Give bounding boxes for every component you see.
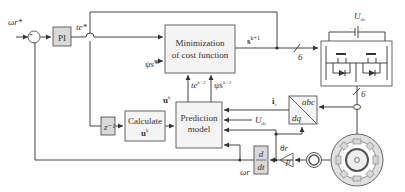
svg-text:+: + [29, 31, 33, 39]
mptc-block-diagram: ωr* + − PI te* ψs* Minimization of cost … [0, 0, 405, 192]
current-label: is [272, 96, 277, 107]
rotor-angle-label: θr [280, 143, 288, 153]
speed-reference-input: ωr* [8, 17, 28, 37]
cost-function-minimization-block: Minimization of cost function [165, 25, 235, 73]
pi-controller-block: PI [53, 27, 71, 46]
svg-text:model: model [188, 124, 211, 134]
svg-text:PI: PI [58, 33, 66, 43]
svg-text:p: p [285, 156, 291, 166]
svg-text:of cost function: of cost function [172, 50, 229, 60]
summing-junction: + − [28, 31, 40, 47]
abc-dq-transform-block: abc dq [289, 96, 317, 124]
svg-text:+: + [360, 26, 363, 31]
current-sensor-icon [354, 105, 361, 110]
calculate-voltage-block: Calculate uk [125, 111, 165, 141]
svg-text:-: - [350, 26, 352, 31]
prediction-model-block: Prediction model [176, 102, 222, 148]
rotor-speed-label: ωr [240, 167, 250, 177]
torque-reference-line [71, 33, 163, 37]
torque-prediction-label: tek+2 [191, 80, 206, 90]
inverter-block: Udc - + [321, 11, 392, 86]
svg-text:z⁻¹: z⁻¹ [103, 122, 115, 132]
dc-voltage-label: Udc [354, 11, 366, 22]
bus-width-right: 6 [361, 89, 366, 99]
motor-icon [331, 134, 383, 186]
svg-text:dq: dq [292, 113, 302, 123]
svg-text:Calculate: Calculate [128, 116, 162, 126]
voltage-vector-label: uk [163, 95, 171, 105]
svg-text:ωr*: ωr* [8, 17, 23, 27]
encoder-icon [307, 153, 322, 168]
flux-prediction-label: ψsk+2 [214, 80, 232, 90]
unit-delay-block: z⁻¹ [101, 117, 115, 135]
bus-width-top: 6 [298, 52, 303, 62]
svg-text:d: d [259, 149, 264, 159]
svg-text:Minimization: Minimization [176, 38, 225, 48]
derivative-block: d dt [254, 146, 268, 174]
svg-text:Prediction: Prediction [181, 113, 218, 123]
svg-text:dt: dt [257, 162, 265, 172]
svg-text:abc: abc [302, 97, 315, 107]
torque-reference-label: te* [76, 22, 87, 32]
switch-state-label: sk+1 [247, 35, 260, 46]
dc-voltage-input-label: Udc [255, 115, 267, 126]
